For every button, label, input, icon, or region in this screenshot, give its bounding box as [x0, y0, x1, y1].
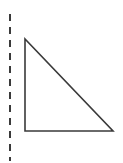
- figure-canvas: [0, 0, 123, 163]
- geometry-figure-svg: [0, 0, 123, 163]
- canvas-background: [0, 0, 123, 163]
